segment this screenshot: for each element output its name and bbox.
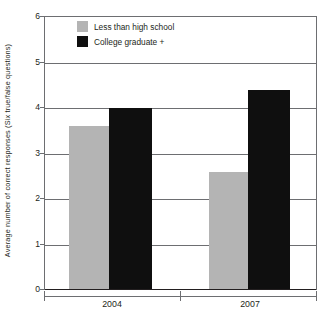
x-tick-label-2004: 2004 [102, 299, 122, 309]
gray-swatch-icon [77, 21, 88, 32]
y-tick-label-6: 6 [26, 12, 40, 21]
x-axis-tick-middle [180, 291, 181, 301]
legend-item-college-graduate: College graduate + [77, 35, 174, 48]
y-axis-title: Average number of correct responses (Six… [0, 0, 16, 300]
bar-2004-less-than-high-school [69, 126, 109, 290]
y-tick-label-2: 2 [26, 194, 40, 203]
legend: Less than high school College graduate + [77, 20, 174, 50]
legend-label-college-graduate: College graduate + [94, 37, 164, 47]
x-axis-baseline [45, 289, 316, 290]
x-axis-tick-right [316, 291, 317, 301]
x-tick-label-2007: 2007 [240, 299, 260, 309]
bar-2007-college-graduate [248, 90, 290, 290]
plot-area [44, 16, 317, 290]
bar-chart: Average number of correct responses (Six… [0, 0, 328, 317]
black-swatch-icon [77, 36, 88, 47]
bar-2007-less-than-high-school [209, 172, 248, 290]
legend-item-less-than-high-school: Less than high school [77, 20, 174, 33]
legend-label-less-than-high-school: Less than high school [94, 22, 174, 32]
bar-2004-college-graduate [109, 108, 152, 290]
y-tick-label-0: 0 [26, 285, 40, 294]
y-axis-title-text: Average number of correct responses (Six… [4, 43, 13, 256]
x-axis-tick-left [44, 291, 45, 301]
y-tick-label-3: 3 [26, 148, 40, 157]
y-tick-label-5: 5 [26, 57, 40, 66]
gridline-5 [45, 63, 316, 64]
y-axis-tick-labels: 6 5 4 3 2 1 0 [18, 0, 40, 317]
y-tick-label-4: 4 [26, 103, 40, 112]
y-tick-label-1: 1 [26, 239, 40, 248]
